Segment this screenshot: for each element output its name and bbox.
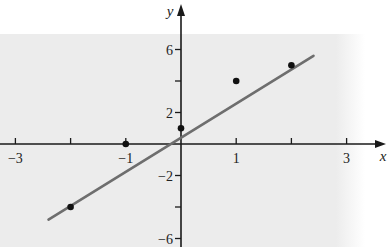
data-point: [233, 78, 240, 85]
y-axis-label: y: [165, 3, 174, 19]
data-point: [67, 204, 74, 211]
x-axis-arrow-icon: [375, 140, 386, 148]
x-tick-label: −3: [8, 151, 23, 166]
data-point: [288, 62, 295, 69]
y-tick-label: 2: [166, 106, 173, 121]
x-tick-label: 3: [343, 151, 350, 166]
data-point: [123, 141, 130, 148]
x-tick-label: −1: [118, 151, 133, 166]
x-tick-label: 1: [233, 151, 240, 166]
y-axis-arrow-icon: [177, 4, 185, 16]
scatter-plot: −3−113−6−226xy: [0, 0, 391, 247]
data-point: [178, 125, 185, 132]
y-tick-label: 6: [166, 43, 173, 58]
y-tick-label: −6: [158, 232, 173, 247]
y-tick-label: −2: [158, 169, 173, 184]
x-axis-label: x: [379, 148, 387, 164]
